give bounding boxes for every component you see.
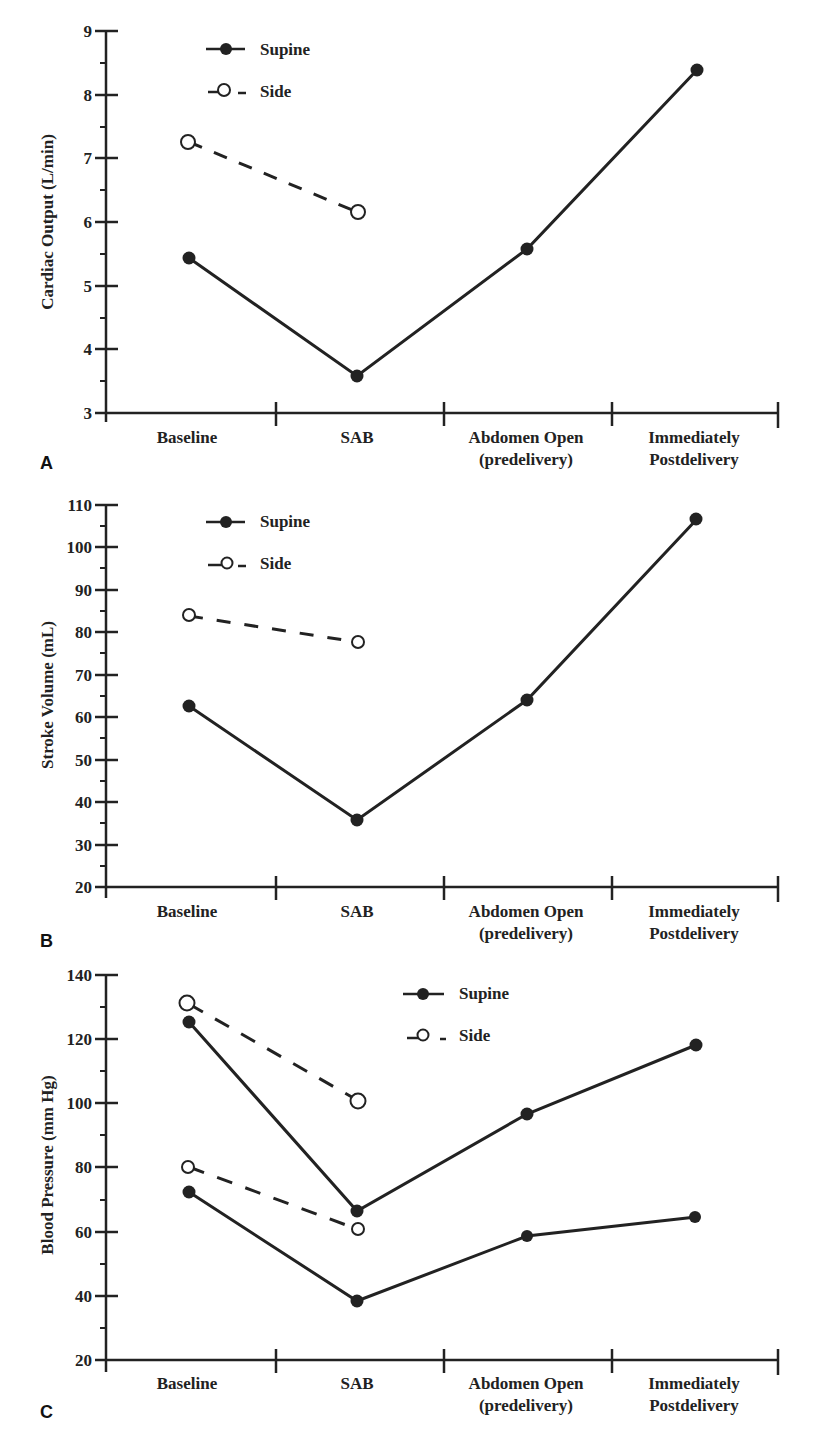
series-side-systolic [180,996,366,1109]
data-point [351,1205,364,1218]
legend-label-side: Side [260,554,292,573]
data-point [351,1094,366,1109]
legend-label-side: Side [459,1026,491,1045]
data-point [351,370,364,383]
category-label-predelivery: (predelivery) [479,1396,573,1415]
panel-letter-a: A [40,453,53,473]
category-label-abdomen-open: Abdomen Open [469,1374,584,1393]
y-tick-label: 20 [75,1351,92,1370]
series-supine-systolic [183,1016,703,1218]
data-point [352,636,364,648]
category-label-predelivery: (predelivery) [479,924,573,943]
y-tick-label: 3 [84,404,93,423]
data-point [182,1161,194,1173]
y-axis-title: Blood Pressure (mm Hg) [38,1075,57,1254]
y-tick-label: 60 [75,708,92,727]
y-tick-label: 30 [75,836,92,855]
y-tick-label: 4 [84,340,93,359]
data-point [352,1223,364,1235]
y-tick-label: 20 [75,878,92,897]
data-point [690,513,703,526]
y-tick-label: 40 [75,1287,92,1306]
open-circle-marker-icon [222,558,233,569]
data-point [521,243,534,256]
category-label-postdelivery: Postdelivery [649,924,739,943]
y-tick-label: 110 [67,496,92,515]
category-label-immediately: Immediately [648,428,740,447]
data-point [521,694,534,707]
y-tick-label: 60 [75,1223,92,1242]
category-label-postdelivery: Postdelivery [649,450,739,469]
y-tick-label: 80 [75,623,92,642]
x-category-ticks [276,876,778,902]
data-point [689,1211,701,1223]
y-axis-title: Cardiac Output (L/min) [38,134,57,310]
open-circle-marker-icon [218,84,230,96]
y-tick-label: 140 [67,966,93,985]
data-point [180,996,195,1011]
data-point [183,609,195,621]
category-label-sab: SAB [340,1374,373,1393]
panel-b: 110 100 90 80 70 60 50 40 30 20 Stroke V… [38,496,778,951]
x-category-labels: Baseline SAB Abdomen Open (predelivery) … [157,1374,741,1415]
legend: Supine Side [206,40,311,101]
data-point [691,64,704,77]
legend-label-side: Side [260,82,292,101]
y-tick-label: 80 [75,1158,92,1177]
filled-circle-marker-icon [417,988,429,1000]
y-tick-label: 70 [75,666,92,685]
y-tick-label: 50 [75,751,92,770]
data-point [521,1108,534,1121]
y-tick-label: 100 [67,538,93,557]
category-label-postdelivery: Postdelivery [649,1396,739,1415]
open-circle-marker-icon [418,1030,429,1041]
y-tick-label: 100 [67,1094,93,1113]
x-category-labels: Baseline SAB Abdomen Open (predelivery) … [157,428,741,469]
y-tick-label: 90 [75,581,92,600]
y-tick-label: 40 [75,793,92,812]
panel-a: 9 8 7 6 5 4 3 Cardiac Output (L/min) Bas… [38,22,778,473]
y-tick-label: 6 [84,213,93,232]
x-category-labels: Baseline SAB Abdomen Open (predelivery) … [157,902,741,943]
category-label-sab: SAB [340,902,373,921]
y-tick-labels: 140 120 100 80 60 40 20 [67,966,93,1370]
y-tick-label: 7 [84,149,93,168]
figure: 9 8 7 6 5 4 3 Cardiac Output (L/min) Bas… [0,0,818,1432]
series-supine-diastolic [183,1186,702,1308]
x-category-ticks [276,402,778,428]
data-point [183,700,196,713]
legend-label-supine: Supine [260,40,311,59]
panel-letter-c: C [40,1402,53,1422]
data-point [351,205,365,219]
data-point [183,1016,196,1029]
legend: Supine Side [206,512,311,573]
series-side-diastolic [182,1161,364,1235]
data-point [351,1295,364,1308]
series-side [181,135,365,219]
filled-circle-marker-icon [220,516,232,528]
x-category-ticks [276,1349,778,1375]
category-label-baseline: Baseline [157,902,218,921]
data-point [181,135,195,149]
data-point [183,252,196,265]
legend: Supine Side [403,984,510,1045]
data-point [183,1186,196,1199]
legend-label-supine: Supine [459,984,510,1003]
legend-label-supine: Supine [260,512,311,531]
category-label-abdomen-open: Abdomen Open [469,428,584,447]
y-tick-label: 5 [84,277,93,296]
series-supine [183,64,704,383]
y-tick-label: 120 [67,1030,93,1049]
data-point [351,814,364,827]
series-side [183,609,364,648]
y-tick-label: 9 [84,22,93,41]
y-tick-label: 8 [84,86,93,105]
category-label-immediately: Immediately [648,902,740,921]
data-point [690,1039,703,1052]
panel-c: 140 120 100 80 60 40 20 Blood Pressure (… [38,966,778,1422]
category-label-baseline: Baseline [157,428,218,447]
category-label-predelivery: (predelivery) [479,450,573,469]
category-label-sab: SAB [340,428,373,447]
data-point [521,1230,533,1242]
category-label-abdomen-open: Abdomen Open [469,902,584,921]
